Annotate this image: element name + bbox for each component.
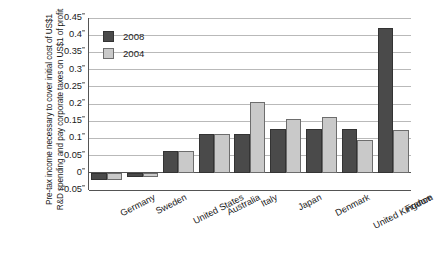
- bar-italy-2008: [234, 134, 250, 173]
- bar-sweden-2008: [127, 173, 143, 177]
- y-axis-tick-mark: [82, 31, 85, 32]
- y-axis-tick-mark: [82, 151, 85, 152]
- bar-germany-2008: [91, 173, 107, 180]
- bar-group: [304, 18, 340, 190]
- x-axis-tick-labels: GermanySwedenUnited StatesAustraliaItaly…: [88, 191, 418, 271]
- x-axis-tick-label-sweden: Sweden: [154, 193, 188, 217]
- y-axis-title-container: Pre-tax income necessary to cover initia…: [0, 0, 48, 215]
- bar-denmark-2004: [322, 117, 338, 173]
- legend-swatch-2008-icon: [103, 31, 114, 42]
- bar-germany-2004: [107, 173, 123, 181]
- bar-group: [339, 18, 375, 190]
- y-axis-tick-mark: [82, 185, 85, 186]
- y-axis-tick-label: 0.2: [69, 99, 82, 108]
- y-axis-tick-label: 0.15: [64, 117, 82, 126]
- bar-australia-2004: [214, 134, 230, 173]
- y-axis-tick-mark: [82, 65, 85, 66]
- y-axis-tick-mark: [82, 117, 85, 118]
- bar-group: [268, 18, 304, 190]
- y-axis-tick-label: 0.1: [69, 134, 82, 143]
- bar-france-2004: [393, 130, 409, 173]
- x-axis-tick-label-italy: Italy: [260, 193, 279, 209]
- y-axis-tick-label: 0.4: [69, 31, 82, 40]
- x-axis-tick-label-germany: Germany: [119, 193, 157, 219]
- x-axis-tick-label-japan: Japan: [296, 193, 323, 213]
- bar-japan-2008: [270, 129, 286, 173]
- bar-united-kingdom-2008: [342, 129, 358, 173]
- y-axis-tick-label: 0.25: [64, 82, 82, 91]
- legend-item-2008: 2008: [103, 28, 213, 45]
- legend: 2008 2004: [103, 28, 213, 62]
- legend-item-2004: 2004: [103, 45, 213, 62]
- legend-label-2008: 2008: [123, 32, 144, 42]
- y-axis-tick-label: 0.05: [64, 151, 82, 160]
- y-axis-tick-mark: [82, 48, 85, 49]
- bar-sweden-2004: [143, 173, 159, 177]
- y-axis-tick-labels: –0.0500.050.10.150.20.250.30.350.40.45: [44, 18, 86, 190]
- y-axis-tick-label: –0.05: [59, 185, 82, 194]
- bar-australia-2008: [199, 134, 215, 173]
- y-axis-tick-mark: [82, 99, 85, 100]
- y-axis-tick-label: 0: [77, 168, 82, 177]
- y-axis-tick-label: 0.45: [64, 13, 82, 22]
- bar-denmark-2008: [306, 129, 322, 173]
- bar-group: [232, 18, 268, 190]
- y-axis-tick-label: 0.35: [64, 48, 82, 57]
- plot-area: 2008 2004: [88, 18, 411, 190]
- y-axis-tick-mark: [82, 13, 85, 14]
- bar-united-states-2004: [178, 151, 194, 172]
- y-axis-tick-mark: [82, 168, 85, 169]
- bar-united-kingdom-2004: [357, 140, 373, 173]
- y-axis-tick-mark: [82, 82, 85, 83]
- bar-united-states-2008: [163, 151, 179, 172]
- x-axis-tick-label-denmark: Denmark: [334, 193, 372, 218]
- x-axis-tick-label-france: France: [404, 193, 434, 215]
- bar-italy-2004: [250, 102, 266, 173]
- legend-swatch-2004-icon: [103, 48, 114, 59]
- legend-label-2004: 2004: [123, 49, 144, 59]
- bar-group: [375, 18, 411, 190]
- bar-france-2008: [378, 28, 394, 172]
- bar-japan-2004: [286, 119, 302, 172]
- y-axis-tick-mark: [82, 134, 85, 135]
- y-axis-tick-label: 0.3: [69, 65, 82, 74]
